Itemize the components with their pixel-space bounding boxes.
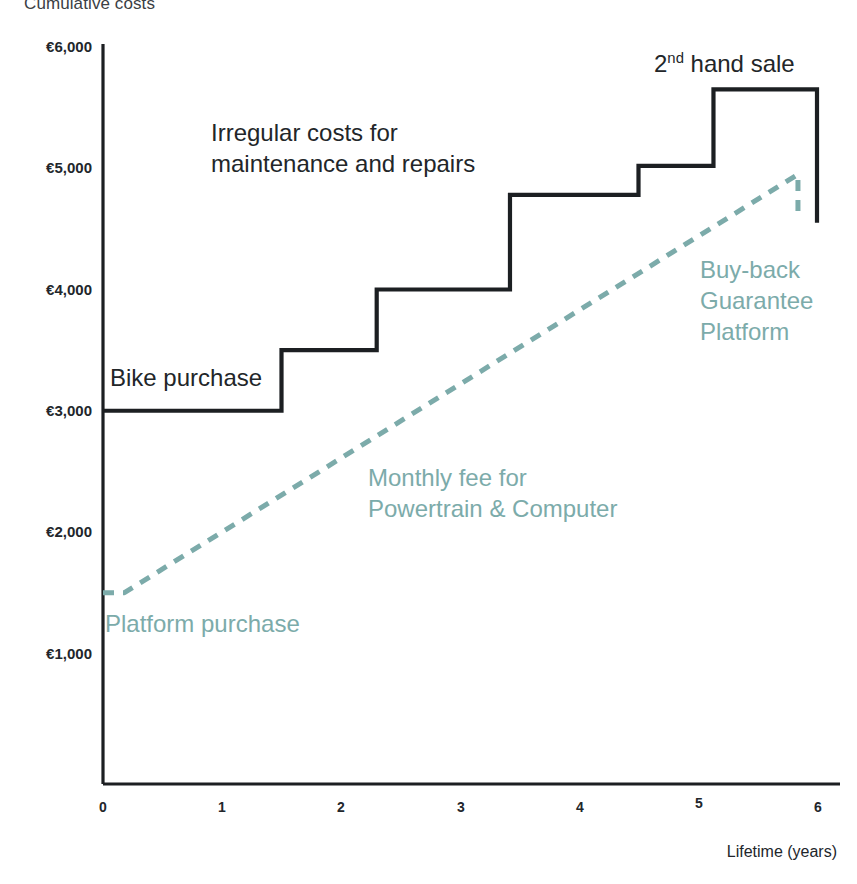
- annotation-second-hand-sale: 2nd hand sale: [654, 48, 795, 79]
- x-tick-label-0: 0: [83, 799, 123, 815]
- x-tick-label-4: 4: [560, 799, 600, 815]
- annotation-monthly-fee: Monthly fee for Powertrain & Computer: [368, 462, 617, 524]
- y-tick-label-3000: €3,000: [18, 402, 92, 419]
- x-axis-title: Lifetime (years): [727, 843, 837, 861]
- annotation-irregular-costs: Irregular costs for maintenance and repa…: [211, 117, 475, 179]
- second-hand-sale-number: 2: [654, 50, 667, 77]
- annotation-platform-purchase: Platform purchase: [105, 608, 300, 639]
- x-tick-label-6: 6: [798, 799, 838, 815]
- y-tick-label-6000: €6,000: [18, 38, 92, 55]
- y-tick-label-4000: €4,000: [18, 281, 92, 298]
- y-tick-label-5000: €5,000: [18, 159, 92, 176]
- x-tick-label-3: 3: [441, 799, 481, 815]
- y-tick-label-1000: €1,000: [18, 645, 92, 662]
- cumulative-costs-chart: Cumulative costs €6,000 €5,000 €4,000 €3…: [0, 0, 857, 884]
- second-hand-sale-ordinal-suffix: nd: [667, 50, 684, 66]
- annotation-buy-back-platform: Buy-back Guarantee Platform: [700, 254, 813, 348]
- second-hand-sale-rest: hand sale: [684, 50, 795, 77]
- y-tick-label-2000: €2,000: [18, 523, 92, 540]
- x-tick-label-5: 5: [679, 795, 719, 811]
- x-tick-label-2: 2: [321, 799, 361, 815]
- x-tick-label-1: 1: [202, 799, 242, 815]
- annotation-bike-purchase: Bike purchase: [110, 362, 262, 393]
